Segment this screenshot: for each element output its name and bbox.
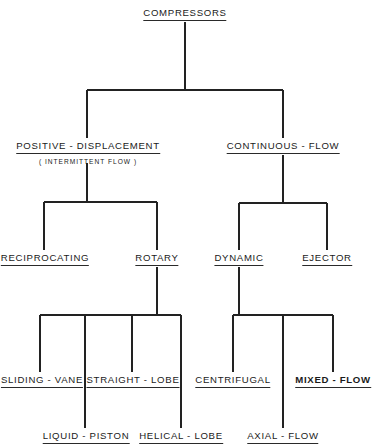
node-label: STRAIGHT - LOBE <box>87 375 180 388</box>
node-helical-lobe: HELICAL - LOBE <box>139 431 223 444</box>
node-continuous-flow: CONTINUOUS - FLOW <box>227 141 340 154</box>
node-label: HELICAL - LOBE <box>139 431 223 444</box>
node-sublabel: ( INTERMITTENT FLOW ) <box>16 157 160 167</box>
node-compressors: COMPRESSORS <box>143 8 226 21</box>
node-label: MIXED - FLOW <box>295 375 371 388</box>
node-liquid-piston: LIQUID - PISTON <box>43 431 130 444</box>
node-straight-lobe: STRAIGHT - LOBE <box>87 375 180 388</box>
node-label: AXIAL - FLOW <box>247 431 318 444</box>
node-axial-flow: AXIAL - FLOW <box>247 431 318 444</box>
node-label: EJECTOR <box>302 253 352 266</box>
node-positive-displacement: POSITIVE - DISPLACEMENT ( INTERMITTENT F… <box>16 141 160 167</box>
node-label: SLIDING - VANE <box>1 375 83 388</box>
node-label: LIQUID - PISTON <box>43 431 130 444</box>
node-rotary: ROTARY <box>135 253 178 266</box>
node-label: POSITIVE - DISPLACEMENT <box>16 141 160 154</box>
node-label: RECIPROCATING <box>1 253 89 266</box>
node-label: CONTINUOUS - FLOW <box>227 141 340 154</box>
node-label: ROTARY <box>135 253 178 266</box>
node-label: COMPRESSORS <box>143 8 226 21</box>
node-label: DYNAMIC <box>214 253 263 266</box>
node-ejector: EJECTOR <box>302 253 352 266</box>
compressor-classification-diagram: COMPRESSORS POSITIVE - DISPLACEMENT ( IN… <box>0 0 375 448</box>
node-dynamic: DYNAMIC <box>214 253 263 266</box>
node-reciprocating: RECIPROCATING <box>1 253 89 266</box>
node-mixed-flow: MIXED - FLOW <box>295 375 371 388</box>
node-centrifugal: CENTRIFUGAL <box>195 375 270 388</box>
node-sliding-vane: SLIDING - VANE <box>1 375 83 388</box>
node-label: CENTRIFUGAL <box>195 375 270 388</box>
